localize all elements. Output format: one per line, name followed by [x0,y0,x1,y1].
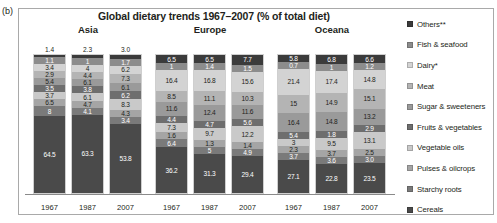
segment-cereals: 64.5 [34,116,65,193]
segment-value-label: 5.4 [289,132,298,139]
stacked-bar[interactable]: 144.46.13.86.14.74.163.3 [71,54,104,194]
legend-swatch-icon [407,165,413,171]
legend-item-label: Meat [417,82,434,91]
legend-swatch-icon [407,124,413,130]
segment-value-label: 3.7 [327,150,336,157]
segment-value-label: 36.2 [165,167,177,174]
segment-starchy-roots: 3.6 [316,157,347,164]
segment-value-label: 8.3 [121,101,130,108]
segment-dairy: 4 [72,65,103,72]
legend-item[interactable]: Others** [407,14,495,35]
segment-cereals: 36.2 [156,147,187,193]
stacked-bar[interactable]: 5.80.721.41516.45.432.33.727.1 [277,54,310,194]
legend-swatch-icon [407,186,413,192]
segment-dairy: 15.6 [232,72,263,92]
legend-item[interactable]: Pulses & oilcrops [407,158,495,179]
bar-1967[interactable]: 1.41.13.42.95.43.53.76.5864.51967 [33,36,66,214]
segment-value-label: 6.1 [121,84,130,91]
segment-value-label: 4.7 [83,101,92,108]
legend-swatch-icon [407,62,413,68]
panel-label: (b) [2,6,13,16]
segment-value-label: 7.7 [243,56,252,63]
segment-value-label: 1 [330,64,333,71]
segment-fish-seafood: 1.4 [194,63,225,70]
segment-sugar-sweeteners: 11.6 [232,105,263,120]
stacked-bar[interactable]: 1.13.42.95.43.53.76.5864.5 [33,54,66,194]
segment-fish-seafood: 1.2 [354,63,385,70]
segment-value-label: 3.7 [289,153,298,160]
legend-item[interactable]: Fish & seafood [407,35,495,56]
stacked-bar[interactable]: 6.5116.48.511.64.47.31.66.436.2 [155,54,188,194]
segment-meat: 14.9 [316,93,347,112]
legend-item[interactable]: Vegetable oils [407,138,495,159]
legend-item[interactable]: Starchy roots [407,179,495,200]
segment-sugar-sweeteners: 14.8 [316,112,347,131]
region-europe: Europe6.5116.48.511.64.47.31.66.436.2196… [147,24,273,214]
legend-item[interactable]: Sugar & sweeteners [407,96,495,117]
legend-item[interactable]: Cereals [407,199,495,220]
bar-1987[interactable]: 6.51.416.811.112.44.79.71.3531.31987 [193,36,226,214]
segment-sugar-sweeteners: 6.1 [72,79,103,87]
legend-item[interactable]: Fruits & vegetables [407,117,495,138]
segment-value-label: 4 [86,65,89,72]
bar-top-value-label: 2.3 [71,46,104,54]
segment-value-label: 10.3 [241,95,253,102]
segment-others: 6.5 [194,55,225,63]
segment-fruits-vegetables: 6.2 [110,91,141,99]
segment-others: 5.8 [278,55,309,62]
segment-value-label: 16.8 [203,77,215,84]
stacked-bar[interactable]: 6.8117.414.914.81.89.53.73.622.8 [315,54,348,194]
segment-value-label: 1.6 [167,132,176,139]
legend-item[interactable]: Meat [407,76,495,97]
segment-starchy-roots: 6.4 [156,139,187,147]
x-axis-tick-label: 2007 [109,203,142,212]
segment-cereals: 53.8 [110,124,141,193]
x-axis-tick-label: 1987 [71,203,104,212]
legend-item[interactable]: Dairy* [407,55,495,76]
bar-1987[interactable]: 6.8117.414.914.81.89.53.73.622.81987 [315,36,348,214]
bar-1987[interactable]: 2.3144.46.13.86.14.74.163.31987 [71,36,104,214]
segment-value-label: 6.5 [45,99,54,106]
segment-value-label: 5.4 [45,78,54,85]
segment-sugar-sweeteners: 12.4 [194,105,225,121]
bar-2007[interactable]: 7.71.515.610.311.65.612.21.44.929.42007 [231,36,264,214]
plot-area: Asia1.41.13.42.95.43.53.76.5864.519672.3… [19,24,401,214]
legend-swatch-icon [407,207,413,213]
stacked-bar[interactable]: 1.76.27.36.16.28.34.33.453.8 [109,54,142,194]
stacked-bar[interactable]: 7.71.515.610.311.65.612.21.44.929.4 [231,54,264,194]
segment-fruits-vegetables: 1.8 [316,131,347,138]
segment-pulses-oilcrops: 1.6 [156,132,187,139]
legend-item-label: Fruits & vegetables [417,123,482,132]
segment-sugar-sweeteners: 16.4 [278,113,309,133]
bar-2007[interactable]: 3.01.76.27.36.16.28.34.33.453.82007 [109,36,142,214]
x-axis-tick-label: 1967 [33,203,66,212]
bar-1967[interactable]: 6.5116.48.511.64.47.31.66.436.21967 [155,36,188,214]
segment-starchy-roots: 4.1 [72,108,103,115]
stacked-bar[interactable]: 6.61.214.815.113.22.913.12.53.023.5 [353,54,386,194]
segment-value-label: 3.6 [327,157,336,164]
bar-top-value-label: 1.4 [33,46,66,54]
segment-value-label: 2.3 [289,146,298,153]
segment-fruits-vegetables: 2.9 [354,125,385,132]
segment-value-label: 1.3 [205,140,214,147]
segment-value-label: 4.3 [121,110,130,117]
segment-fruits-vegetables: 3.5 [34,85,65,92]
segment-value-label: 4.9 [243,149,252,156]
legend-swatch-icon [407,145,413,151]
segment-value-label: 13.1 [363,137,375,144]
x-axis-tick-label: 1987 [315,203,348,212]
segment-value-label: 7.3 [167,124,176,131]
segment-cereals: 22.8 [316,164,347,193]
bar-2007[interactable]: 6.61.214.815.113.22.913.12.53.023.52007 [353,36,386,214]
segment-others: 7.7 [232,55,263,65]
segment-value-label: 8 [48,108,51,115]
segment-fruits-vegetables: 4.4 [156,116,187,123]
segment-value-label: 3.0 [365,156,374,163]
segment-fish-seafood: 1 [156,63,187,70]
x-axis-tick-label: 2007 [231,203,264,212]
bar-1967[interactable]: 5.80.721.41516.45.432.33.727.11967 [277,36,310,214]
segment-vegetable-oils: 8.3 [110,99,141,110]
segment-value-label: 1 [170,63,173,70]
segment-value-label: 1.5 [243,65,252,72]
stacked-bar[interactable]: 6.51.416.811.112.44.79.71.3531.3 [193,54,226,194]
